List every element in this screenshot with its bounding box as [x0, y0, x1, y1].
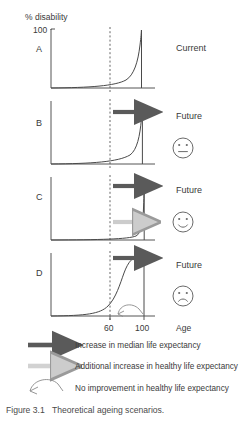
panel-A-disability-curve: [51, 30, 141, 88]
panel-C-disability-curve: [51, 179, 144, 240]
panel-C-scenario-label: Future: [176, 185, 202, 195]
y-axis-tick-100: 100: [33, 25, 47, 35]
panel-B-scenario-label: Future: [176, 111, 202, 121]
panel-A-axes: [51, 29, 155, 88]
legend-item-2: No improvement in healthy life expectanc…: [30, 380, 230, 394]
panel-D-disability-curve: [51, 255, 141, 316]
panel-D-x-ticks: [110, 316, 144, 320]
legend-item-1-label: Additional increase in healthy life expe…: [75, 362, 239, 371]
panel-D-scenario-label: Future: [176, 260, 202, 270]
panel-C-axes: [51, 177, 155, 240]
legend: Increase in median life expectancy Addit…: [28, 341, 239, 394]
panel-C-face-smile-icon: [173, 212, 193, 232]
panel-B-face-neutral-icon: [173, 138, 193, 158]
panel-D-plateau-and-death-line: [141, 255, 144, 316]
panel-D: D Future 60 100 Age: [36, 251, 202, 333]
x-axis-tick-100: 100: [135, 323, 149, 333]
y-axis-title: % disability: [25, 12, 68, 22]
panel-A: A Current: [36, 27, 207, 92]
figure-caption-label: Figure 3.1: [6, 405, 45, 415]
legend-item-1: Additional increase in healthy life expe…: [28, 362, 239, 371]
x-axis-tick-60: 60: [104, 323, 114, 333]
panel-A-scenario-label: Current: [176, 43, 207, 53]
legend-item-2-label: No improvement in healthy life expectanc…: [75, 384, 230, 393]
panel-A-letter: A: [36, 44, 42, 54]
legend-item-0: Increase in median life expectancy: [28, 341, 202, 350]
panel-B-letter: B: [36, 118, 42, 128]
panel-D-letter: D: [36, 268, 43, 278]
panel-B: B Future: [36, 99, 202, 168]
panel-C: C Future: [36, 175, 202, 244]
legend-item-0-label: Increase in median life expectancy: [75, 341, 202, 350]
figure-container: % disability 100 A Current B Future: [0, 0, 250, 421]
figure-caption-text: Theoretical ageing scenarios.: [52, 405, 164, 415]
x-axis-title: Age: [176, 323, 191, 333]
swoosh-icon: [30, 380, 63, 394]
panel-D-swoosh-icon: [118, 305, 143, 317]
figure-caption: Figure 3.1 Theoretical ageing scenarios.: [6, 405, 164, 415]
panel-D-axes: [51, 253, 155, 316]
ageing-scenarios-chart: % disability 100 A Current B Future: [0, 0, 250, 421]
panel-D-face-sad-icon: [173, 286, 193, 306]
panel-C-letter: C: [36, 192, 43, 202]
